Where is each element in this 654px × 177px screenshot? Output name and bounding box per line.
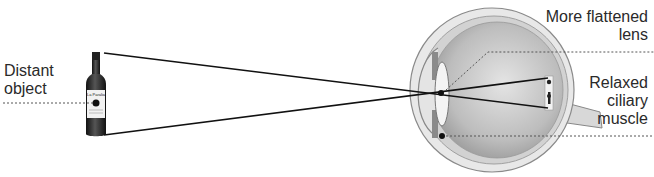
muscle-marker-dot	[439, 133, 445, 139]
label-line: ciliary	[589, 92, 648, 110]
label-line: Relaxed	[589, 74, 648, 92]
label-line: lens	[546, 26, 648, 44]
label-line: More flattened	[546, 8, 648, 26]
wine-bottle: La Paralia	[86, 52, 106, 136]
label-line: Distant	[4, 62, 54, 80]
label-line: muscle	[589, 110, 648, 128]
label-ciliary-muscle: Relaxed ciliary muscle	[589, 74, 648, 128]
label-line: object	[4, 80, 54, 98]
label-distant-object: Distant object	[4, 62, 54, 98]
svg-text:La Paralia: La Paralia	[87, 92, 106, 97]
label-flattened-lens: More flattened lens	[546, 8, 648, 44]
lens-marker-dot	[438, 90, 444, 96]
